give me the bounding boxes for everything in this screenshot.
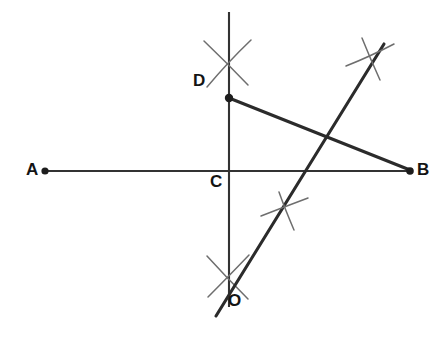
- arc-cross-on-diagonal-upper: [346, 38, 394, 80]
- arc-stroke-diagonal-upper-1: [346, 44, 394, 66]
- point-label-D: D: [193, 72, 205, 89]
- arc-stroke-above-D-1: [204, 41, 248, 85]
- diagonal-line-O-to-upper-right: [216, 44, 384, 316]
- point-label-A: A: [26, 161, 38, 178]
- point-label-C: C: [210, 173, 222, 190]
- arc-cross-above-D: [204, 40, 251, 87]
- point-dot-D: [225, 94, 233, 102]
- segment-DB: [229, 98, 410, 170]
- point-label-O: O: [228, 292, 241, 309]
- point-dot-B: [406, 167, 414, 175]
- arc-cross-on-diagonal-lower: [261, 192, 308, 230]
- point-label-B: B: [417, 161, 429, 178]
- point-dot-A: [41, 167, 48, 174]
- geometry-diagram: A B C D O: [0, 0, 438, 344]
